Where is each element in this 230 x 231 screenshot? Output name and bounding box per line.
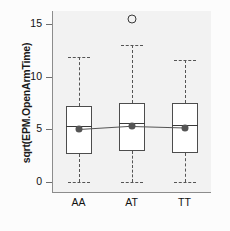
y-tick-label-15: 15 <box>12 17 42 29</box>
mean-marker-at <box>128 123 135 130</box>
mean-marker-aa <box>75 126 82 133</box>
outlier-at-0 <box>127 14 136 23</box>
whisker-upper-aa <box>79 57 80 107</box>
whisker-lower-at <box>132 151 133 182</box>
whisker-cap-upper-at <box>121 45 143 46</box>
whisker-cap-lower-at <box>121 182 143 183</box>
y-tick-15 <box>46 24 52 25</box>
whisker-cap-lower-tt <box>174 182 196 183</box>
whisker-cap-upper-tt <box>174 60 196 61</box>
whisker-cap-lower-aa <box>68 182 90 183</box>
x-axis-line <box>52 192 211 193</box>
x-tick-label-at: AT <box>109 196 155 208</box>
whisker-cap-upper-aa <box>68 57 90 58</box>
whisker-upper-tt <box>185 60 186 103</box>
mean-marker-tt <box>181 124 188 131</box>
y-tick-label-5: 5 <box>12 122 42 134</box>
y-tick-5 <box>46 129 52 130</box>
whisker-lower-tt <box>185 153 186 182</box>
x-tick-label-aa: AA <box>56 196 102 208</box>
boxplot-figure: sqrt(EPM.OpenArmTime) 051015 AAATTT <box>0 0 230 231</box>
y-tick-label-10: 10 <box>12 70 42 82</box>
y-tick-10 <box>46 77 52 78</box>
x-tick-label-tt: TT <box>162 196 208 208</box>
whisker-lower-aa <box>79 154 80 182</box>
whisker-upper-at <box>132 45 133 103</box>
y-axis-title: sqrt(EPM.OpenArmTime) <box>20 28 32 178</box>
y-tick-0 <box>46 182 52 183</box>
y-tick-label-0: 0 <box>12 175 42 187</box>
